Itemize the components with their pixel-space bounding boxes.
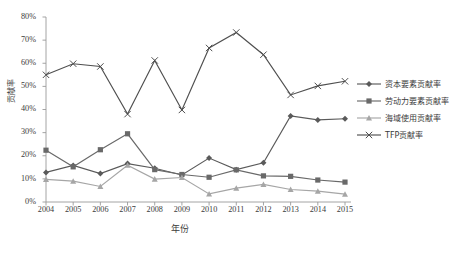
data-point bbox=[98, 147, 103, 152]
chart-container: 贡献率 0%10%20%30%40%50%60%70%80% 年份 资本要素贡献… bbox=[0, 0, 459, 253]
data-point bbox=[260, 160, 266, 166]
data-point bbox=[287, 92, 293, 98]
data-point bbox=[288, 174, 293, 179]
data-series bbox=[43, 29, 348, 117]
legend-label: TFP贡献率 bbox=[385, 129, 423, 140]
axis-lines bbox=[43, 17, 352, 206]
data-point bbox=[43, 148, 48, 153]
data-point bbox=[233, 29, 239, 35]
data-point bbox=[152, 167, 157, 172]
data-point bbox=[261, 173, 266, 178]
data-point bbox=[315, 177, 320, 182]
data-point bbox=[43, 169, 49, 175]
data-point bbox=[342, 180, 347, 185]
legend-item[interactable]: TFP贡献率 bbox=[356, 126, 459, 143]
legend-label: 海域使用贡献率 bbox=[385, 112, 441, 123]
data-series bbox=[43, 113, 348, 178]
data-series bbox=[43, 162, 348, 196]
data-point bbox=[234, 167, 239, 172]
legend-label: 劳动力要素贡献率 bbox=[385, 95, 449, 106]
legend-item[interactable]: 劳动力要素贡献率 bbox=[356, 92, 459, 109]
data-point bbox=[71, 164, 76, 169]
data-series bbox=[43, 131, 347, 185]
data-point bbox=[179, 107, 185, 113]
legend-item[interactable]: 海域使用贡献率 bbox=[356, 109, 459, 126]
legend-marker-icon bbox=[356, 77, 382, 91]
data-point bbox=[206, 175, 211, 180]
chart-legend: 资本要素贡献率劳动力要素贡献率海域使用贡献率TFP贡献率 bbox=[356, 75, 459, 143]
x-axis-title: 年份 bbox=[0, 222, 360, 235]
data-point bbox=[152, 57, 158, 63]
legend-label: 资本要素贡献率 bbox=[385, 78, 441, 89]
data-point bbox=[260, 51, 266, 57]
data-point bbox=[125, 131, 130, 136]
data-point bbox=[342, 116, 348, 122]
data-point bbox=[206, 45, 212, 51]
data-point bbox=[97, 171, 103, 177]
legend-marker-icon bbox=[356, 128, 382, 142]
data-point bbox=[124, 111, 130, 117]
data-point bbox=[288, 113, 294, 119]
legend-marker-icon bbox=[356, 111, 382, 125]
x-axis-tick-label: 2015 bbox=[328, 205, 362, 214]
legend-item[interactable]: 资本要素贡献率 bbox=[356, 75, 459, 92]
data-point bbox=[315, 117, 321, 123]
data-point bbox=[206, 155, 212, 161]
legend-marker-icon bbox=[356, 94, 382, 108]
